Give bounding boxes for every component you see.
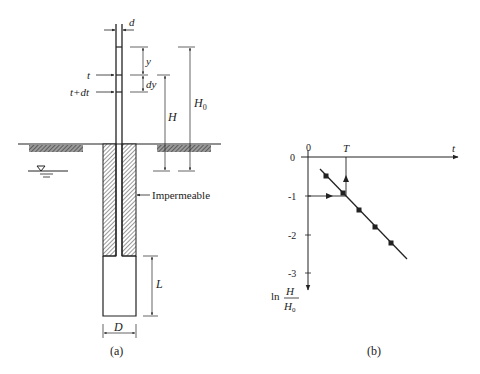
data-point bbox=[389, 241, 394, 246]
soil-hatch-left bbox=[29, 145, 83, 152]
caption-a: (a) bbox=[110, 344, 123, 358]
y-tick-2: -2 bbox=[288, 230, 296, 241]
casing-right bbox=[122, 144, 136, 256]
data-point bbox=[357, 208, 362, 213]
label-H0: H0 bbox=[193, 96, 207, 112]
fit-line bbox=[320, 169, 407, 259]
label-impermeable: Impermeable bbox=[152, 189, 210, 201]
figure-canvas: d t t+dt y dy H H0 Impermeable L bbox=[0, 0, 480, 374]
label-dy: dy bbox=[146, 78, 157, 90]
label-T: T bbox=[343, 142, 350, 154]
label-d: d bbox=[129, 16, 135, 28]
data-point bbox=[341, 191, 346, 196]
label-t-axis: t bbox=[452, 142, 456, 154]
data-point bbox=[373, 225, 378, 230]
label-D: D bbox=[113, 320, 123, 334]
casing-left bbox=[103, 144, 116, 256]
x-origin-label: 0 bbox=[306, 142, 311, 153]
data-point bbox=[324, 174, 329, 179]
water-table-icon bbox=[28, 166, 68, 177]
figure-b: 0 -1 -2 -3 0 T t ln H H0 (b) bbox=[271, 142, 458, 358]
label-y: y bbox=[145, 55, 151, 67]
figure-a: d t t+dt y dy H H0 Impermeable L bbox=[18, 16, 221, 358]
borehole-intake bbox=[103, 256, 136, 316]
label-t-dt: t+dt bbox=[70, 86, 90, 98]
y-tick-0: 0 bbox=[290, 152, 295, 163]
caption-b: (b) bbox=[367, 344, 381, 358]
label-L: L bbox=[155, 277, 163, 291]
y-tick-1: -1 bbox=[288, 191, 296, 202]
ylabel-num: H bbox=[285, 285, 295, 297]
ylabel-ln: ln bbox=[271, 290, 280, 302]
ylabel-den: H0 bbox=[283, 300, 296, 314]
label-t: t bbox=[87, 69, 91, 81]
label-H: H bbox=[167, 110, 178, 124]
y-tick-3: -3 bbox=[288, 268, 296, 279]
